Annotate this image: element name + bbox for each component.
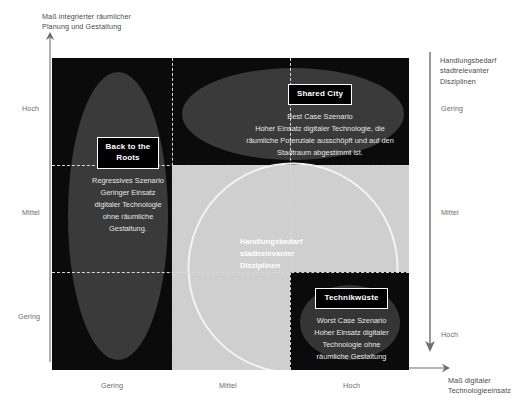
y-axis-tick-gering: Gering <box>18 312 40 321</box>
y-axis-caption: Maß integrierter räumlicher Planung und … <box>42 12 192 33</box>
right-axis-tick-mittel: Mittel <box>441 208 459 217</box>
y-axis-tick-hoch: Hoch <box>22 104 39 113</box>
divider-horizontal-bottom <box>52 272 409 273</box>
scenario-badge-shared-city: Shared City <box>288 84 352 105</box>
scenario-badge-back-to-the-roots: Back to the Roots <box>97 137 160 169</box>
y-axis-tick-mittel: Mittel <box>22 208 40 217</box>
need-for-action-label: Handlungsbedarf stadtrelevanter Diszipli… <box>240 236 350 271</box>
scenario-back-to-the-roots[interactable]: Back to the Roots Regressives Szenario G… <box>78 137 178 235</box>
x-axis-tick-gering: Gering <box>101 381 123 390</box>
scenario-description-back-to-the-roots: Regressives Szenario Geringer Einsatz di… <box>78 175 178 235</box>
x-axis-tick-hoch: Hoch <box>343 381 360 390</box>
right-axis-tick-gering: Gering <box>441 104 463 113</box>
scenario-description-shared-city: Best Case Szenario Hoher Einsatz digital… <box>227 111 409 159</box>
x-axis-tick-mittel: Mittel <box>219 381 237 390</box>
x-axis-caption: Maß digitaler Technologieeinsatz <box>448 376 523 397</box>
right-axis-arrow-icon <box>424 52 436 352</box>
scenario-description-technikwueste: Worst Case Szenario Hoher Einsatz digita… <box>300 315 403 363</box>
scenario-technikwueste[interactable]: Technikwüste Worst Case Szenario Hoher E… <box>300 286 403 363</box>
scenario-badge-technikwueste: Technikwüste <box>315 288 387 309</box>
scenario-matrix-plot: Handlungsbedarf stadtrelevanter Diszipli… <box>52 58 409 370</box>
right-axis-tick-hoch: Hoch <box>441 330 458 339</box>
right-axis-caption: Handlungsbedarf stadtrelevanter Diszipli… <box>440 56 520 87</box>
scenario-shared-city[interactable]: Shared City Best Case Szenario Hoher Ein… <box>227 82 409 159</box>
